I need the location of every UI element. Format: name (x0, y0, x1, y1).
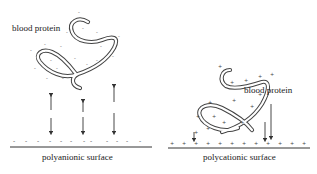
svg-text:+: + (254, 140, 258, 146)
svg-text:+: + (240, 119, 244, 125)
svg-text:-: - (82, 25, 84, 31)
svg-text:-: - (66, 29, 68, 35)
svg-text:-: - (70, 137, 72, 144)
svg-text:+: + (182, 140, 186, 146)
svg-text:+: + (206, 125, 210, 131)
left-repulsion-arrows (51, 86, 114, 133)
svg-text:-: - (50, 57, 52, 63)
svg-text:+: + (208, 99, 212, 105)
svg-text:-: - (60, 137, 62, 144)
svg-text:-: - (34, 65, 36, 71)
svg-text:-: - (37, 137, 39, 144)
svg-text:-: - (62, 75, 64, 81)
svg-text:-: - (100, 43, 102, 49)
svg-text:-: - (13, 137, 15, 144)
svg-text:+: + (218, 140, 222, 146)
svg-text:-: - (30, 47, 32, 53)
svg-text:-: - (96, 57, 98, 63)
svg-text:+: + (258, 73, 262, 79)
svg-text:-: - (56, 65, 58, 71)
svg-text:+: + (218, 63, 222, 69)
right-protein-label: blood protein (244, 85, 292, 95)
svg-text:+: + (194, 129, 198, 135)
svg-text:+: + (206, 140, 210, 146)
svg-text:-: - (60, 43, 62, 49)
svg-text:-: - (74, 55, 76, 61)
svg-text:+: + (278, 140, 282, 146)
svg-text:+: + (196, 113, 200, 119)
svg-text:-: - (25, 137, 27, 144)
svg-text:-: - (90, 137, 92, 144)
right-protein-charges: +++ +++ +++ +++ +++ (194, 63, 274, 135)
left-surface-label: polyanionic surface (42, 152, 113, 162)
svg-text:+: + (232, 97, 236, 103)
svg-text:-: - (46, 75, 48, 81)
svg-text:-: - (83, 137, 85, 144)
svg-text:+: + (170, 140, 174, 146)
svg-text:-: - (112, 53, 114, 59)
left-protein-label: blood protein (12, 23, 60, 33)
right-surface-charges: ++++ ++++ ++++ (170, 140, 306, 146)
svg-text:-: - (118, 33, 120, 39)
svg-text:+: + (194, 140, 198, 146)
svg-text:-: - (78, 9, 80, 15)
svg-text:+: + (266, 140, 270, 146)
svg-text:+: + (222, 119, 226, 125)
svg-text:-: - (139, 137, 141, 144)
svg-text:-: - (126, 137, 128, 144)
svg-text:+: + (242, 140, 246, 146)
right-surface-label: polycationic surface (203, 152, 276, 162)
svg-text:+: + (302, 140, 306, 146)
svg-text:+: + (290, 140, 294, 146)
svg-text:-: - (116, 137, 118, 144)
svg-text:+: + (270, 71, 274, 77)
svg-text:-: - (44, 41, 46, 47)
left-surface-charges: ---- ---- ---- (13, 137, 141, 144)
svg-text:-: - (106, 137, 108, 144)
svg-text:-: - (86, 61, 88, 67)
svg-text:+: + (230, 140, 234, 146)
svg-text:+: + (212, 113, 216, 119)
svg-text:+: + (244, 77, 248, 83)
svg-text:+: + (230, 79, 234, 85)
svg-text:-: - (96, 29, 98, 35)
svg-text:+: + (250, 103, 254, 109)
svg-text:-: - (49, 137, 51, 144)
